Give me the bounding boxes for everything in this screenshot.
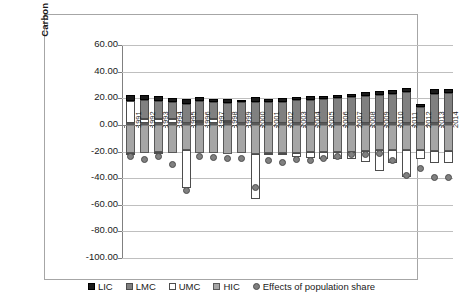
bar-segment-lic — [333, 95, 342, 98]
bar-segment-hic-negative — [195, 125, 204, 153]
bar-segment-umc-negative — [444, 151, 453, 164]
bar-column[interactable] — [251, 45, 260, 258]
bar-segment-umc-negative — [416, 150, 425, 159]
bar-segment-lic — [182, 99, 191, 104]
legend-label: Effects of population share — [263, 281, 375, 292]
y-axis-tick-label: 40.00 — [48, 65, 118, 76]
bar-column[interactable] — [361, 45, 370, 258]
population-share-marker — [224, 155, 231, 162]
population-share-marker — [334, 153, 341, 160]
bar-column[interactable] — [375, 45, 384, 258]
bar-segment-lic — [430, 89, 439, 93]
bar-column[interactable] — [237, 45, 246, 258]
population-share-marker — [155, 153, 162, 160]
legend-swatch-dot-icon — [253, 283, 260, 290]
x-axis-tickmark — [207, 125, 208, 128]
bar-segment-hic-negative — [251, 125, 260, 154]
chart-frame: Carbon emissions (MtC) 60.0040.0020.000.… — [44, 14, 418, 280]
y-axis-tick-label: -40.00 — [48, 171, 118, 182]
bar-column[interactable] — [126, 45, 135, 258]
population-share-marker — [141, 156, 148, 163]
bar-column[interactable] — [154, 45, 163, 258]
bar-column[interactable] — [444, 45, 453, 258]
x-axis-tickmark — [358, 125, 359, 128]
bar-segment-hic-negative — [168, 125, 177, 154]
x-axis-tickmark — [165, 125, 166, 128]
bar-segment-lic — [416, 104, 425, 107]
bar-segment-lic — [209, 99, 218, 102]
bar-column[interactable] — [402, 45, 411, 258]
legend-item[interactable]: LMC — [126, 281, 156, 292]
x-axis-tickmark — [179, 125, 180, 128]
x-axis-tickmark — [414, 125, 415, 128]
bar-segment-hic-negative — [292, 125, 301, 153]
legend-item[interactable]: UMC — [169, 281, 201, 292]
bar-segment-lic — [347, 94, 356, 97]
plot-area: 60.0040.0020.000.00-20.00-40.00-60.00-80… — [122, 45, 453, 258]
legend-label: HIC — [223, 281, 239, 292]
bar-segment-hic-negative — [154, 125, 163, 152]
x-axis-tickmark — [138, 125, 139, 128]
bar-segment-lic — [361, 92, 370, 95]
x-axis-tickmark — [400, 125, 401, 128]
bar-segment-hic-negative — [306, 125, 315, 152]
legend-item[interactable]: LIC — [88, 281, 113, 292]
legend-swatch-lmc — [126, 283, 133, 290]
bar-group — [122, 45, 453, 258]
population-share-marker — [320, 155, 327, 162]
bar-segment-hic-negative — [237, 125, 246, 154]
bar-column[interactable] — [319, 45, 328, 258]
bar-column[interactable] — [306, 45, 315, 258]
bar-segment-hic-negative — [278, 125, 287, 153]
bar-column[interactable] — [223, 45, 232, 258]
bar-segment-lic — [388, 90, 397, 94]
x-axis-tickmark — [124, 125, 125, 128]
bar-segment-hic-negative — [126, 125, 135, 154]
x-axis-tickmark — [193, 125, 194, 128]
bar-segment-lic — [168, 98, 177, 102]
bar-segment-lic — [264, 99, 273, 102]
bar-segment-lic — [154, 96, 163, 100]
population-share-marker — [210, 154, 217, 161]
y-axis-tick-label: 0.00 — [48, 118, 118, 129]
x-axis-tickmark — [427, 125, 428, 128]
bar-segment-hic-negative — [223, 125, 232, 154]
y-axis-tick-label: -20.00 — [48, 145, 118, 156]
bar-column[interactable] — [430, 45, 439, 258]
x-axis-tickmark — [441, 125, 442, 128]
bar-segment-umc-negative — [430, 151, 439, 163]
bar-column[interactable] — [388, 45, 397, 258]
bar-column[interactable] — [333, 45, 342, 258]
population-share-marker — [252, 184, 259, 191]
bar-column[interactable] — [140, 45, 149, 258]
bar-column[interactable] — [195, 45, 204, 258]
bar-segment-lic — [292, 97, 301, 100]
x-axis-tickmark — [290, 125, 291, 128]
legend-swatch-umc — [169, 283, 176, 290]
bar-column[interactable] — [347, 45, 356, 258]
bar-column[interactable] — [292, 45, 301, 258]
bar-segment-hic-negative — [388, 125, 397, 150]
bar-segment-hic-negative — [264, 125, 273, 154]
bar-column[interactable] — [168, 45, 177, 258]
x-axis-tickmark — [152, 125, 153, 128]
population-share-marker — [265, 157, 272, 164]
bar-segment-lic — [444, 89, 453, 93]
y-axis-tick-label: -60.00 — [48, 198, 118, 209]
bar-segment-hic-negative — [444, 125, 453, 151]
bar-column[interactable] — [209, 45, 218, 258]
legend-label: LMC — [136, 281, 156, 292]
x-axis-tickmark — [317, 125, 318, 128]
legend-item[interactable]: Effects of population share — [253, 281, 375, 292]
bar-column[interactable] — [278, 45, 287, 258]
bar-column[interactable] — [416, 45, 425, 258]
legend-item[interactable]: HIC — [213, 281, 239, 292]
bar-segment-lic — [126, 95, 135, 102]
population-share-marker — [431, 174, 438, 181]
bar-column[interactable] — [264, 45, 273, 258]
bar-column[interactable] — [182, 45, 191, 258]
y-axis-tick-label: 20.00 — [48, 91, 118, 102]
bar-segment-hic-negative — [416, 125, 425, 150]
bar-segment-umc-negative — [182, 150, 191, 188]
legend-swatch-lic — [88, 283, 95, 290]
